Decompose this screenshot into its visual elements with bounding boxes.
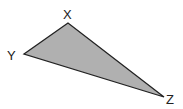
triangle-diagram: X Y Z	[0, 0, 183, 109]
vertex-label-z: Z	[166, 92, 174, 107]
vertex-label-y: Y	[7, 48, 16, 63]
vertex-label-x: X	[63, 7, 72, 22]
triangle-xyz	[24, 23, 164, 97]
